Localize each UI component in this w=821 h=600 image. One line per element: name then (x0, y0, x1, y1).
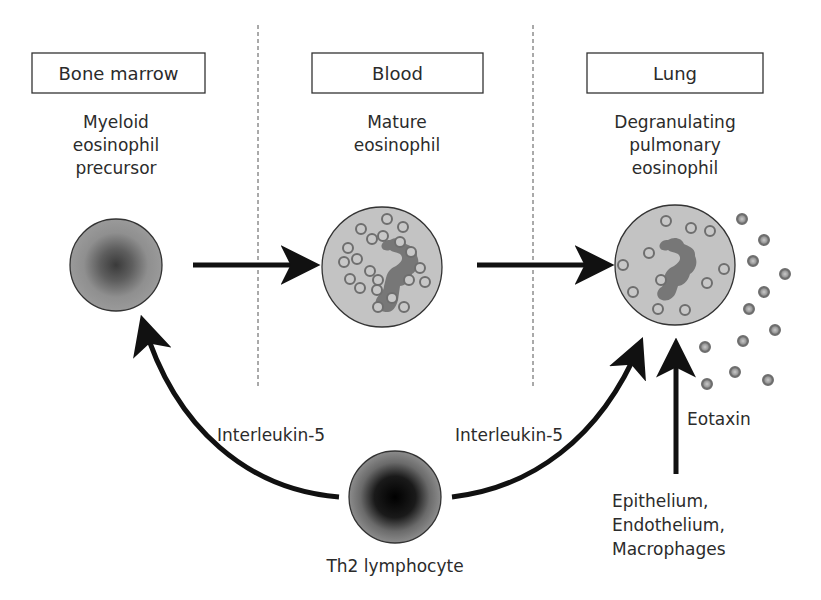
description-line: precursor (75, 158, 156, 178)
granule (372, 285, 382, 295)
granule (367, 234, 377, 244)
il5-arrow-to-lung (452, 344, 640, 497)
il5-label-left: Interleukin-5 (217, 425, 325, 445)
granule (356, 224, 366, 234)
granule (730, 367, 740, 377)
description-line: Myeloid (83, 112, 149, 132)
granule (656, 275, 666, 285)
granule (759, 235, 769, 245)
granule (404, 275, 414, 285)
compartment-label: Lung (653, 63, 697, 84)
granule (737, 214, 747, 224)
granule (382, 214, 392, 224)
precursor-cell (70, 219, 162, 311)
granule (352, 254, 362, 264)
compartment-lung: Lung (587, 53, 763, 93)
granule (365, 266, 375, 276)
th2-label: Th2 lymphocyte (325, 556, 463, 576)
source-line: Endothelium, (612, 515, 725, 535)
granule (759, 287, 769, 297)
granule (763, 375, 773, 385)
source-line: Epithelium, (612, 491, 708, 511)
granule (373, 275, 383, 285)
granule (398, 222, 408, 232)
granule (719, 264, 729, 274)
description-line: pulmonary (629, 135, 721, 155)
granule (387, 293, 397, 303)
degranulating-eosinophil (615, 205, 735, 325)
granule (399, 302, 409, 312)
il5-label-right: Interleukin-5 (455, 425, 563, 445)
compartment-blood: Blood (312, 53, 483, 93)
granule (702, 379, 712, 389)
granule (339, 257, 349, 267)
granule (700, 342, 710, 352)
compartment-label: Bone marrow (59, 63, 179, 84)
compartment-bone-marrow: Bone marrow (32, 53, 205, 93)
description-line: eosinophil (632, 158, 719, 178)
eosinophil-pathway-diagram: Bone marrow Blood Lung Myeloid eosinophi… (0, 0, 821, 600)
granule (395, 237, 405, 247)
granule (770, 325, 780, 335)
granule (378, 231, 388, 241)
description-line: Mature (367, 112, 427, 132)
granule (343, 243, 353, 253)
eotaxin-sources: Epithelium, Endothelium, Macrophages (612, 491, 726, 559)
source-line: Macrophages (612, 539, 726, 559)
granule (644, 248, 654, 258)
granule (420, 277, 430, 287)
granule (345, 274, 355, 284)
description-line: Degranulating (614, 112, 735, 132)
degranulating-description: Degranulating pulmonary eosinophil (614, 112, 735, 178)
granule (373, 302, 383, 312)
granule (680, 305, 690, 315)
granule (618, 260, 628, 270)
description-line: eosinophil (73, 135, 160, 155)
description-line: eosinophil (354, 135, 441, 155)
granule (738, 336, 748, 346)
cell-body (615, 205, 735, 325)
granule (653, 304, 663, 314)
mature-description: Mature eosinophil (354, 112, 441, 155)
precursor-description: Myeloid eosinophil precursor (73, 112, 160, 178)
eotaxin-label: Eotaxin (687, 409, 751, 429)
granule (686, 223, 696, 233)
granule (702, 278, 712, 288)
compartment-label: Blood (372, 63, 423, 84)
mature-eosinophil (322, 207, 442, 327)
granule (705, 226, 715, 236)
granule (748, 256, 758, 266)
il5-arrow-to-marrow (143, 322, 339, 497)
granule (355, 283, 365, 293)
granule (780, 269, 790, 279)
granule (415, 263, 425, 273)
th2-lymphocyte (349, 451, 441, 543)
granule (628, 287, 638, 297)
granule (744, 304, 754, 314)
granule (406, 247, 416, 257)
granule (661, 216, 671, 226)
